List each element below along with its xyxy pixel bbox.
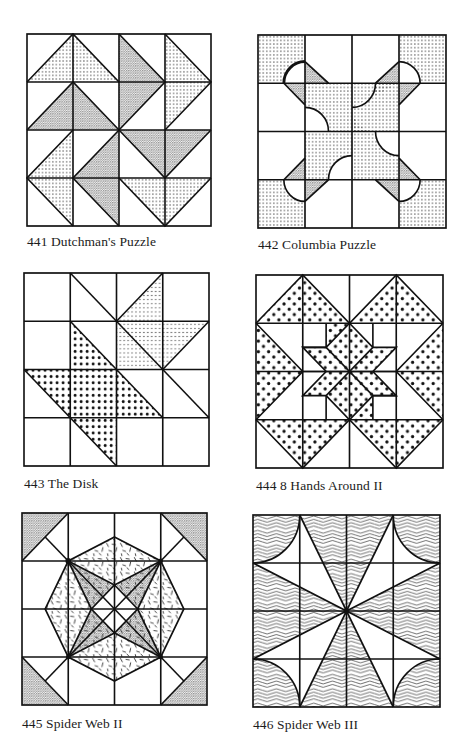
quilt-block-443	[24, 273, 209, 466]
block-caption-441: 441 Dutchman's Puzzle	[27, 234, 156, 250]
8-hands-around-diagram	[256, 275, 443, 468]
quilt-block-444	[256, 275, 443, 468]
the-disk-diagram	[24, 273, 209, 466]
spider-web-iii-diagram	[253, 515, 440, 707]
spider-web-ii-diagram	[22, 513, 207, 705]
quilt-block-442	[258, 35, 446, 228]
quilt-block-446	[253, 515, 440, 707]
columbia-puzzle-diagram	[258, 35, 446, 228]
dutchmans-puzzle-diagram	[27, 34, 211, 226]
quilt-block-441	[27, 34, 211, 226]
quilt-block-445	[22, 513, 207, 705]
block-caption-446: 446 Spider Web III	[253, 717, 358, 733]
block-caption-442: 442 Columbia Puzzle	[258, 237, 376, 253]
block-caption-443: 443 The Disk	[24, 476, 98, 492]
block-caption-445: 445 Spider Web II	[22, 716, 122, 732]
block-caption-444: 444 8 Hands Around II	[256, 478, 383, 494]
